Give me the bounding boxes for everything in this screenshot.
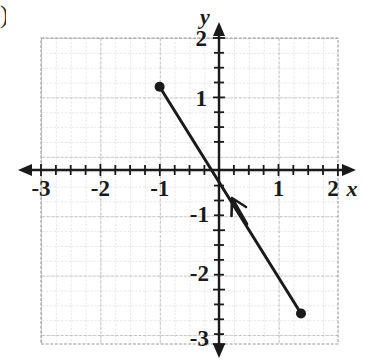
y-axis-arrow-up <box>213 22 225 36</box>
x-tick-label--3: -3 <box>31 176 50 201</box>
y-tick-label--3: -3 <box>190 326 209 351</box>
x-tick-label--2: -2 <box>91 176 110 201</box>
x-tick-label--1: -1 <box>150 176 169 201</box>
x-axis-arrow-left <box>18 164 32 176</box>
y-tick-label--1: -1 <box>190 202 209 227</box>
segment-endpoint-upper <box>155 82 165 92</box>
x-axis-arrow-right <box>342 164 356 176</box>
y-axis-arrow-down <box>213 344 225 358</box>
x-axis-label: x <box>346 176 358 201</box>
y-tick-label-2: 2 <box>196 26 208 51</box>
segment-endpoint-lower <box>296 309 306 319</box>
y-tick-label-1: 1 <box>196 86 208 111</box>
y-tick-label--2: -2 <box>190 261 209 286</box>
x-tick-label-1: 1 <box>273 176 285 201</box>
x-tick-label-2: 2 <box>327 176 339 201</box>
coordinate-plane-figure: -3 -2 -1 1 2 2 1 -1 -2 -3 y x <box>0 0 366 360</box>
x-axis-ticks <box>41 164 338 176</box>
grid-major <box>41 38 338 344</box>
